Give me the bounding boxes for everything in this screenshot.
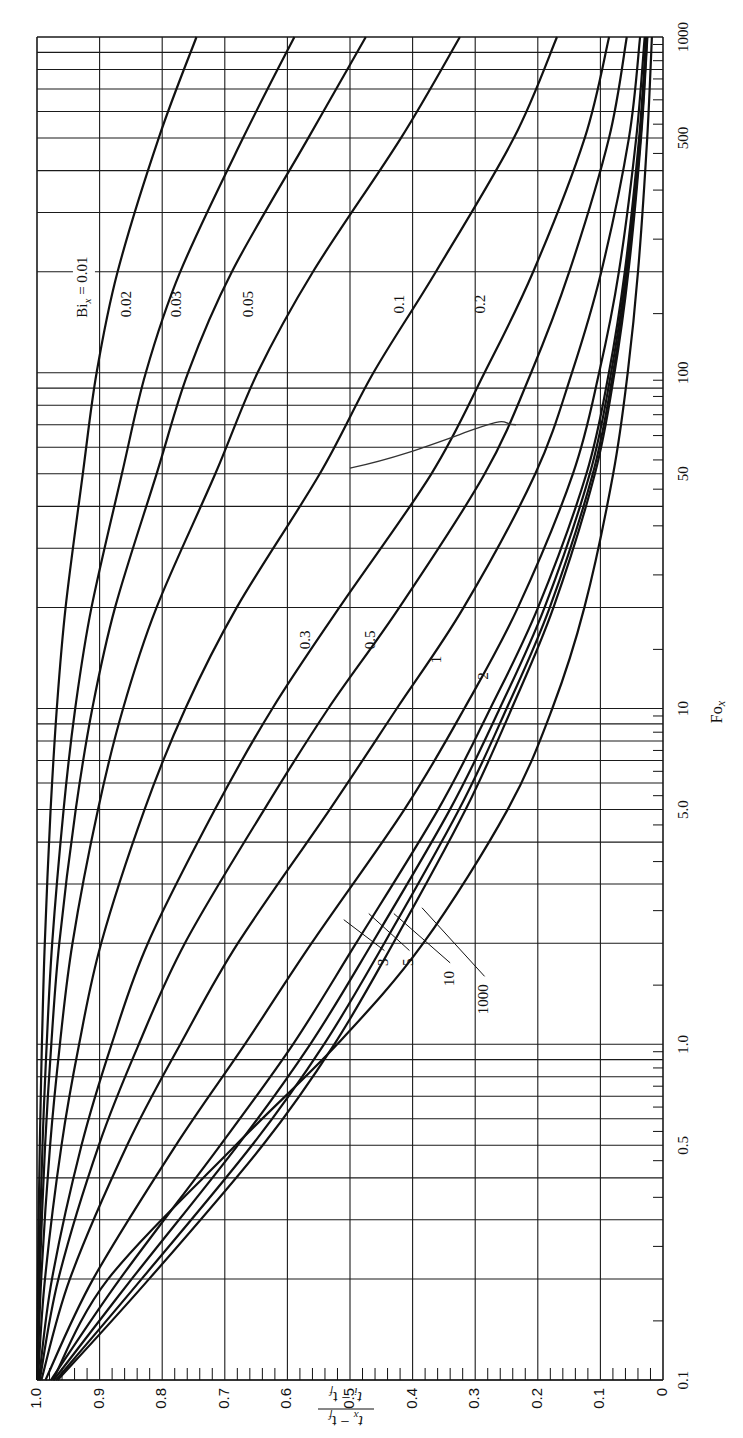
- y-tick-label: 0.8: [152, 1388, 169, 1409]
- x-axis-title: Fox: [708, 700, 728, 723]
- curve-label-1000: 1000: [475, 984, 491, 1014]
- axes: 00.10.20.30.40.50.60.70.80.91.00.10.51.0…: [27, 22, 728, 1430]
- y-tick-label: 0.4: [403, 1388, 420, 1409]
- x-tick-label: 500: [675, 127, 691, 150]
- curve-label-0.3: 0.3: [297, 631, 313, 650]
- y-tick-label: 0.3: [465, 1388, 482, 1409]
- leader-line-10: [394, 914, 450, 963]
- curve-label-5: 5: [400, 959, 416, 967]
- y-tick-label: 1.0: [27, 1388, 44, 1409]
- y-title-numerator: tx − tf: [327, 1410, 363, 1430]
- y-tick-label: 0.1: [590, 1388, 607, 1409]
- x-tick-label: 5.0: [675, 800, 691, 819]
- y-tick-label: 0: [653, 1388, 670, 1396]
- curve-label-0.2: 0.2: [472, 295, 488, 314]
- curve-label-0.1: 0.1: [391, 295, 407, 314]
- chart-container: Bix = 0.010.020.030.050.10.20.30.5123510…: [0, 0, 743, 1438]
- curve-label-0.05: 0.05: [240, 291, 256, 317]
- x-tick-label: 100: [675, 362, 691, 385]
- curve-label-0.02: 0.02: [118, 291, 134, 317]
- y-tick-label: 0.2: [528, 1388, 545, 1409]
- curve-label-3: 3: [375, 959, 391, 967]
- curve-label-0.5: 0.5: [362, 631, 378, 650]
- curve-labels: Bix = 0.010.020.030.050.10.20.30.5123510…: [73, 243, 491, 1014]
- x-tick-label: 1000: [675, 22, 691, 52]
- leader-line-5: [369, 914, 410, 951]
- curve-label-bi-0.01: Bix = 0.01: [74, 256, 92, 317]
- curve-label-0.03: 0.03: [168, 291, 184, 317]
- curve-label-1: 1: [428, 656, 444, 664]
- y-tick-label: 0.9: [90, 1388, 107, 1409]
- y-tick-label: 0.6: [277, 1388, 294, 1409]
- x-tick-label: 50: [675, 466, 691, 481]
- y-tick-label: 0.7: [215, 1388, 232, 1409]
- x-tick-label: 1.0: [675, 1035, 691, 1054]
- x-tick-label: 0.1: [675, 1371, 691, 1390]
- x-tick-label: 0.5: [675, 1136, 691, 1155]
- grid-lines: [37, 37, 663, 1380]
- x-tick-label: 10: [675, 701, 691, 716]
- curve-label-2: 2: [475, 672, 491, 680]
- heisler-semi-infinite-chart: Bix = 0.010.020.030.050.10.20.30.5123510…: [0, 0, 743, 1438]
- curve-label-10: 10: [441, 971, 457, 986]
